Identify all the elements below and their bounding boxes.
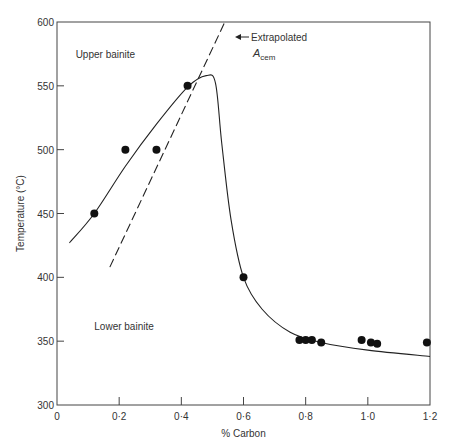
data-point bbox=[240, 273, 248, 281]
label-acem: Acem bbox=[252, 47, 276, 62]
data-point bbox=[423, 338, 431, 346]
x-tick-label: 0 bbox=[54, 411, 60, 422]
y-tick-label: 500 bbox=[37, 145, 54, 156]
annotations: Upper bainiteLower bainiteExtrapolatedAc… bbox=[76, 32, 308, 332]
x-tick-label: 0·6 bbox=[236, 411, 251, 422]
chart: 00·20·40·60·81·01·2300350400450500550600… bbox=[0, 0, 451, 446]
data-point bbox=[152, 146, 160, 154]
label-lower-bainite: Lower bainite bbox=[94, 321, 154, 332]
y-tick-label: 450 bbox=[37, 209, 54, 220]
arrow-head-icon bbox=[235, 34, 241, 40]
y-tick-label: 350 bbox=[37, 336, 54, 347]
x-tick-label: 1·2 bbox=[423, 411, 438, 422]
x-tick-label: 0·8 bbox=[298, 411, 313, 422]
plot-frame bbox=[57, 22, 430, 405]
x-tick-label: 1·0 bbox=[361, 411, 376, 422]
data-point bbox=[308, 336, 316, 344]
x-tick-label: 0·2 bbox=[112, 411, 127, 422]
label-upper-bainite: Upper bainite bbox=[76, 49, 136, 60]
y-axis-label: Temperature (°C) bbox=[15, 175, 26, 252]
bainite-curve bbox=[69, 75, 430, 357]
data-point bbox=[373, 340, 381, 348]
y-tick-label: 400 bbox=[37, 272, 54, 283]
label-extrapolated: Extrapolated bbox=[251, 32, 307, 43]
y-tick-label: 550 bbox=[37, 81, 54, 92]
data-point bbox=[90, 210, 98, 218]
x-tick-label: 0·4 bbox=[174, 411, 189, 422]
data-point bbox=[184, 82, 192, 90]
y-tick-label: 600 bbox=[37, 17, 54, 28]
axes: 00·20·40·60·81·01·2300350400450500550600… bbox=[15, 17, 438, 439]
data-point bbox=[121, 146, 129, 154]
data-point bbox=[317, 338, 325, 346]
data-point bbox=[358, 336, 366, 344]
y-tick-label: 300 bbox=[37, 400, 54, 411]
x-axis-label: % Carbon bbox=[221, 428, 265, 439]
